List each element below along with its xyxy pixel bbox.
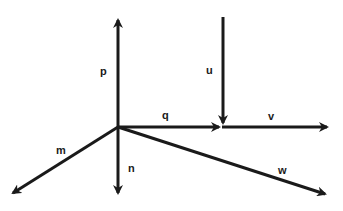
label-n: n [128, 163, 135, 174]
label-p: p [100, 66, 107, 77]
vector-m-arrow [13, 127, 118, 193]
label-v: v [268, 111, 274, 122]
label-q: q [162, 110, 169, 121]
vector-diagram: p u q v m n w [0, 0, 343, 211]
vector-w-arrow [118, 127, 325, 194]
label-u: u [206, 65, 213, 76]
label-w: w [278, 165, 287, 176]
label-m: m [56, 145, 66, 156]
vector-canvas [0, 0, 343, 211]
